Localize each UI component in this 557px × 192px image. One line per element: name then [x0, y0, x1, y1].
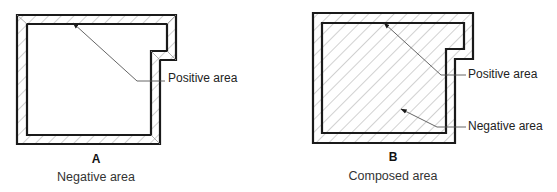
area-diagram: Positive area A Negative area Positive a… — [0, 0, 557, 192]
figure-b: Positive area Negative area B Composed a… — [313, 13, 543, 183]
figure-a-wall-hatch — [17, 15, 176, 144]
figure-a-inner-outline — [27, 24, 167, 135]
figure-b-positive-label: Positive area — [468, 67, 538, 81]
figure-b-area-hatch — [313, 13, 473, 143]
figure-a-positive-label: Positive area — [168, 71, 238, 85]
figure-a-letter: A — [92, 152, 101, 166]
figure-b-letter: B — [389, 150, 398, 164]
figure-a-caption: Negative area — [57, 170, 135, 184]
figure-b-negative-label: Negative area — [468, 119, 543, 133]
figure-b-caption: Composed area — [349, 169, 438, 183]
figure-a: Positive area A Negative area — [17, 15, 238, 184]
